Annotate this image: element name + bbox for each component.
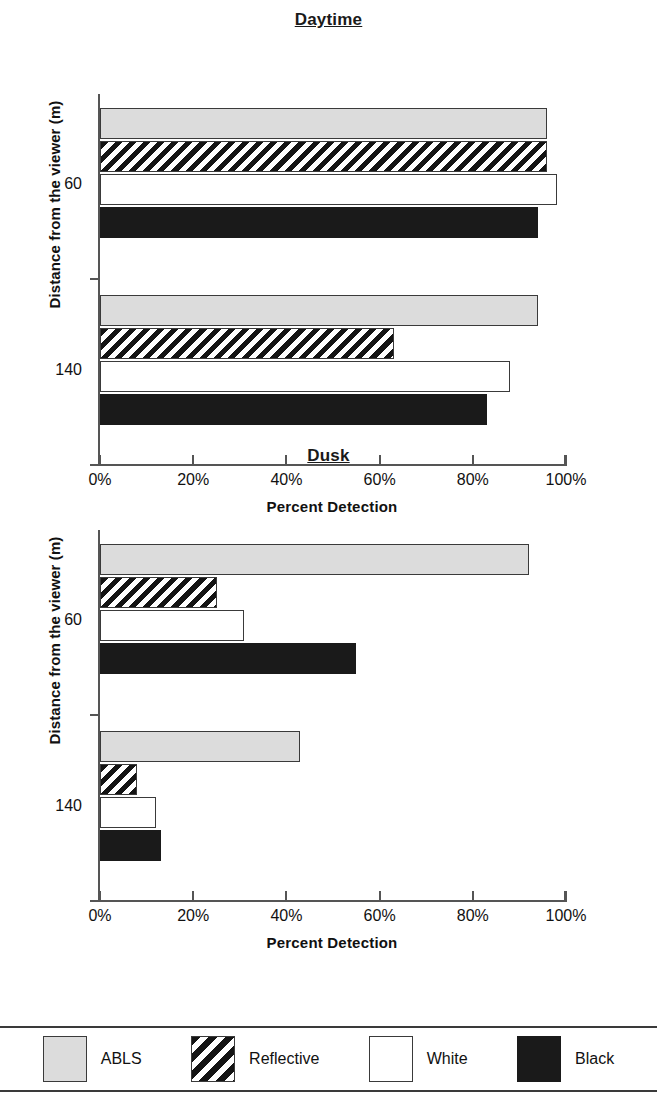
y-tick-label-60-holder: 60 bbox=[90, 186, 99, 188]
x-tick-label: 80% bbox=[457, 907, 489, 925]
bar-reflective-140m bbox=[100, 764, 137, 795]
plot-area-daytime: Distance from the viewer (m) 60 140 0%20… bbox=[0, 36, 657, 436]
bar-white-140m bbox=[100, 361, 510, 392]
y-axis-title: Distance from the viewer (m) bbox=[46, 491, 63, 791]
y-tick-label: 140 bbox=[55, 361, 82, 379]
y-tick-label-140-holder: 140 bbox=[90, 808, 99, 810]
bar-reflective-60m bbox=[100, 141, 547, 172]
x-tick-label: 20% bbox=[177, 907, 209, 925]
y-tick-mark bbox=[90, 714, 99, 716]
bar-abls-140m bbox=[100, 731, 300, 762]
panel-title: Daytime bbox=[0, 0, 657, 36]
legend-label: White bbox=[427, 1050, 468, 1068]
legend-item-white[interactable]: White bbox=[369, 1036, 468, 1082]
legend-label: Black bbox=[575, 1050, 614, 1068]
legend-swatch-abls-icon bbox=[43, 1036, 87, 1082]
y-axis-title: Distance from the viewer (m) bbox=[46, 55, 63, 355]
x-tick-mark bbox=[472, 891, 474, 902]
legend-swatch-white-icon bbox=[369, 1036, 413, 1082]
y-tick-mark bbox=[90, 900, 99, 902]
plot-area-dusk: Distance from the viewer (m) 60 140 0%20… bbox=[0, 472, 657, 872]
bar-black-140m bbox=[100, 394, 487, 425]
legend-swatch-reflective-icon bbox=[191, 1036, 235, 1082]
bar-white-140m bbox=[100, 797, 156, 828]
chart-panel-daytime: Daytime Distance from the viewer (m) 60 … bbox=[0, 0, 657, 436]
chart-panel-dusk: Dusk Distance from the viewer (m) 60 140… bbox=[0, 436, 657, 872]
y-tick-mark bbox=[90, 278, 99, 280]
x-axis-title: Percent Detection bbox=[98, 934, 566, 951]
x-tick-label: 100% bbox=[546, 907, 587, 925]
chart-page: Daytime Distance from the viewer (m) 60 … bbox=[0, 0, 657, 1116]
chart-legend: ABLSReflectiveWhiteBlack bbox=[0, 1026, 657, 1092]
x-tick-label: 0% bbox=[88, 907, 111, 925]
x-tick-mark bbox=[192, 891, 194, 902]
legend-item-abls[interactable]: ABLS bbox=[43, 1036, 142, 1082]
y-tick-label-60-holder: 60 bbox=[90, 622, 99, 624]
bar-abls-60m bbox=[100, 544, 529, 575]
x-tick-mark bbox=[565, 891, 567, 902]
x-tick-mark bbox=[379, 891, 381, 902]
legend-item-reflective[interactable]: Reflective bbox=[191, 1036, 319, 1082]
panel-title: Dusk bbox=[0, 436, 657, 472]
x-tick-mark bbox=[99, 891, 101, 902]
legend-swatch-black-icon bbox=[517, 1036, 561, 1082]
legend-label: Reflective bbox=[249, 1050, 319, 1068]
legend-label: ABLS bbox=[101, 1050, 142, 1068]
x-tick-mark bbox=[285, 891, 287, 902]
y-tick-label: 60 bbox=[64, 175, 82, 193]
bar-reflective-60m bbox=[100, 577, 217, 608]
bar-white-60m bbox=[100, 610, 244, 641]
x-axis-line bbox=[98, 900, 566, 902]
bar-white-60m bbox=[100, 174, 557, 205]
y-tick-label: 60 bbox=[64, 611, 82, 629]
y-tick-label: 140 bbox=[55, 797, 82, 815]
bar-black-60m bbox=[100, 643, 356, 674]
legend-item-black[interactable]: Black bbox=[517, 1036, 614, 1082]
bar-abls-60m bbox=[100, 108, 547, 139]
y-tick-label-140-holder: 140 bbox=[90, 372, 99, 374]
bar-abls-140m bbox=[100, 295, 538, 326]
bar-black-60m bbox=[100, 207, 538, 238]
bar-reflective-140m bbox=[100, 328, 394, 359]
x-tick-label: 40% bbox=[270, 907, 302, 925]
x-tick-label: 60% bbox=[364, 907, 396, 925]
bar-black-140m bbox=[100, 830, 161, 861]
